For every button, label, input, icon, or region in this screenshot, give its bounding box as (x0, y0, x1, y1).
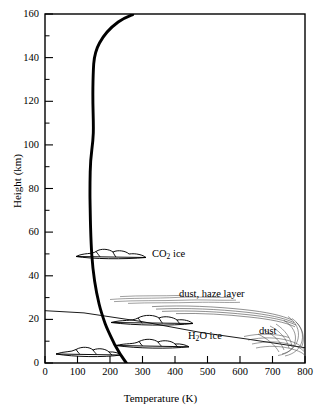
surface-cloud-glyph (56, 347, 121, 356)
y-tick-label-60: 60 (9, 226, 39, 237)
x-tick-label-400: 400 (158, 366, 192, 377)
annotation-h2o-ice-text: H2O ice (188, 330, 222, 341)
chart-figure: 160 140 120 100 80 60 40 20 0 0 100 200 … (0, 0, 321, 415)
x-tick-label-500: 500 (191, 366, 225, 377)
h2o-ice-cloud-lower-glyph (116, 339, 189, 348)
x-tick-label-200: 200 (93, 366, 127, 377)
y-tick-label-160: 160 (9, 8, 39, 19)
x-axis-label: Temperature (K) (0, 392, 321, 404)
x-axis-ticks (45, 356, 305, 363)
x-tick-label-800: 800 (288, 366, 321, 377)
x-tick-label-0: 0 (28, 366, 62, 377)
chart-canvas (0, 0, 321, 415)
dust-streamers-marker (244, 317, 305, 357)
y-tick-label-140: 140 (9, 52, 39, 63)
plot-frame (45, 14, 305, 363)
annotation-h2o-ice: H2O ice (188, 330, 222, 343)
x-tick-label-700: 700 (256, 366, 290, 377)
y-tick-label-120: 120 (9, 95, 39, 106)
annotation-dust-haze-layer: dust, haze layer (179, 288, 245, 299)
x-tick-label-600: 600 (223, 366, 257, 377)
y-tick-label-20: 20 (9, 313, 39, 324)
y-axis-label: Height (km) (11, 141, 23, 221)
annotation-dust: dust (259, 325, 277, 336)
y-tick-label-40: 40 (9, 270, 39, 281)
annotation-co2-ice: CO2 ice (152, 248, 185, 261)
co2-ice-cloud-glyph (76, 249, 146, 258)
temperature-profile-curve (90, 15, 133, 363)
annotation-co2-ice-text: CO2 ice (152, 248, 185, 259)
x-tick-label-300: 300 (126, 366, 160, 377)
x-tick-label-100: 100 (61, 366, 95, 377)
